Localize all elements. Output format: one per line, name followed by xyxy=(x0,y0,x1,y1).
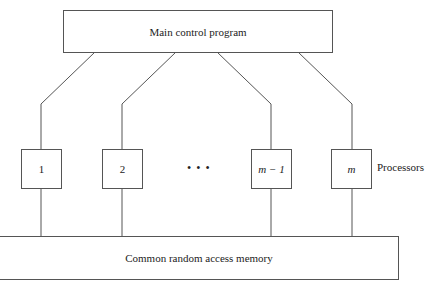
common-memory-label: Common random access memory xyxy=(125,252,273,264)
main-control-program-label: Main control program xyxy=(149,26,246,38)
processor-box-m: m xyxy=(331,149,372,189)
processor-box-2: 2 xyxy=(102,149,143,189)
ellipsis: • • • xyxy=(187,161,211,176)
processor-box-m-minus-1: m − 1 xyxy=(251,149,292,189)
processor-label-2: 2 xyxy=(120,163,126,175)
processor-label-m-minus-1: m − 1 xyxy=(258,163,284,175)
main-control-program-box: Main control program xyxy=(63,10,333,53)
processor-label-m: m xyxy=(348,163,356,175)
processors-label: Processors xyxy=(377,161,424,173)
processor-label-1: 1 xyxy=(39,163,45,175)
common-memory-box: Common random access memory xyxy=(0,236,399,280)
processor-box-1: 1 xyxy=(21,149,62,189)
